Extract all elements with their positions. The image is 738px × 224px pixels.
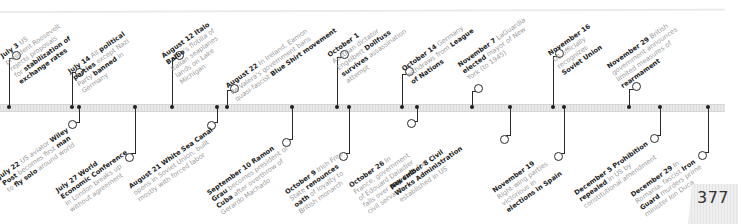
event-stem (135, 108, 136, 154)
event-stem (227, 90, 228, 106)
event-marker-ring-icon (474, 84, 483, 93)
event-stem (417, 108, 418, 122)
event-stem (510, 108, 511, 136)
timeline-bar (0, 104, 725, 112)
event-stem (402, 74, 403, 106)
event-label: July 3 USpresident Rooseveltrejects prop… (0, 15, 77, 86)
event-marker-ring-icon (68, 120, 77, 129)
page-top-rule (0, 9, 725, 14)
event-label: August 22 In Ireland, Eamonde Valera's g… (224, 13, 338, 103)
event-label: September 10 RamonGrau becomes president… (205, 138, 298, 217)
event-stem (292, 108, 293, 140)
event-stem (79, 108, 80, 123)
event-stem (217, 108, 218, 123)
event-stem (708, 108, 709, 153)
event-stem (472, 91, 473, 106)
event-label: July 14 All politicalparties except Nazi… (67, 30, 141, 95)
event-date: August 22 (224, 62, 260, 90)
event-stem (660, 108, 661, 136)
event-stem (349, 108, 350, 154)
event-stem (564, 108, 565, 154)
event-marker-ring-icon (650, 134, 659, 143)
page-number: 377 (697, 188, 729, 207)
event-marker-ring-icon (500, 135, 509, 144)
event-label: November 19Right-wing partiesvictorious … (491, 150, 563, 214)
event-label: October 1Austrian dictatorEngelbert Doll… (326, 8, 413, 85)
event-date: July 3 (0, 41, 21, 59)
event-label: November 16US officiallyrecognizesSoviet… (547, 22, 606, 77)
event-stem (553, 56, 554, 106)
event-marker-ring-icon (554, 152, 563, 161)
event-hook (629, 89, 633, 90)
event-marker-ring-icon (407, 119, 416, 128)
event-date: September 10 (205, 160, 252, 197)
event-label: August 12 ItaloBalbo's flotilla ofItalia… (160, 20, 230, 86)
event-label: November 29 Britishgovernment announcesl… (606, 19, 688, 90)
event-stem (629, 89, 630, 106)
event-marker-ring-icon (698, 151, 707, 160)
